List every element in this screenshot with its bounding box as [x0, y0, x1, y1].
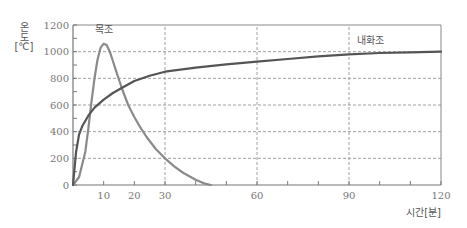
y-tick-label: 400: [50, 126, 69, 137]
x-axis-label: 시간[분]: [406, 207, 441, 218]
y-tick-label: 1000: [44, 46, 69, 57]
x-tick-label: 60: [251, 190, 264, 201]
series-label: 내화조: [357, 35, 384, 46]
series-label: 목조: [95, 24, 113, 35]
y-tick-label: 200: [50, 153, 69, 164]
series-line: [73, 44, 211, 185]
y-axis-label: [℃]: [14, 41, 33, 52]
x-tick-label: 10: [97, 190, 110, 201]
y-tick-label: 0: [63, 180, 69, 191]
y-tick-label: 600: [50, 100, 69, 111]
x-tick-label: 20: [128, 190, 141, 201]
y-tick-label: 800: [50, 73, 69, 84]
x-tick-label: 30: [159, 190, 172, 201]
axes: 1020306090120020040060080010001200: [44, 20, 451, 202]
x-tick-label: 120: [431, 190, 450, 201]
x-tick-label: 90: [343, 190, 356, 201]
line-chart: 1020306090120020040060080010001200 목조내화조…: [0, 0, 467, 228]
y-tick-label: 1200: [44, 20, 69, 31]
